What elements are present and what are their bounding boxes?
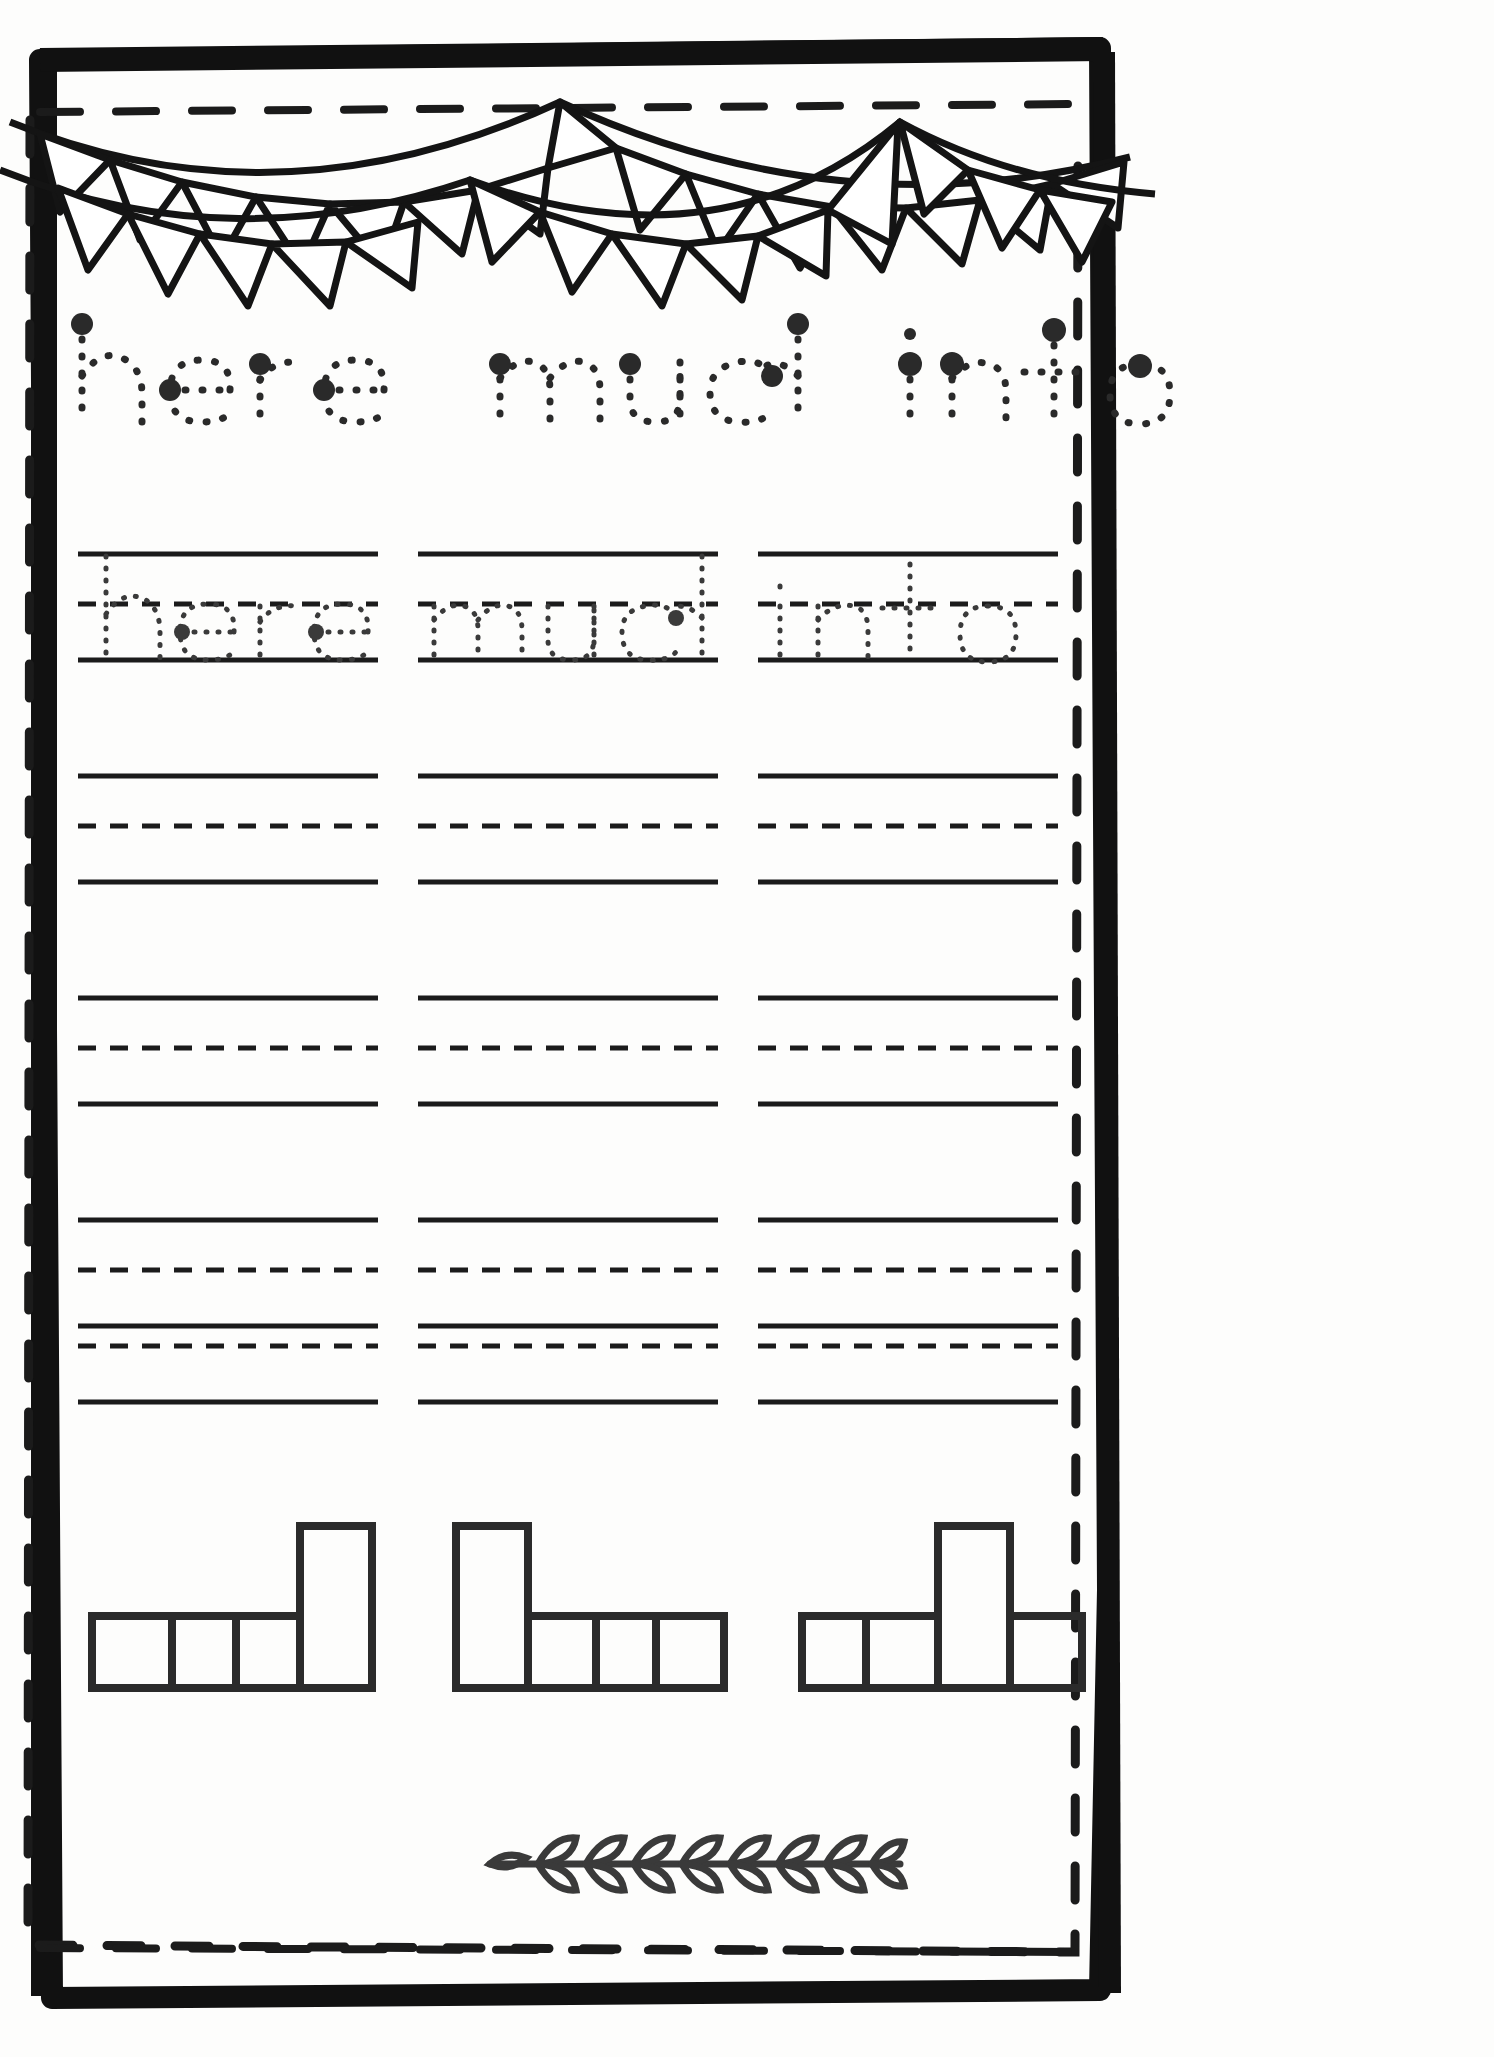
practice-row-3-col-2[interactable]: [418, 992, 718, 1112]
practice-row-1-col-2[interactable]: much: [418, 548, 718, 668]
practice-row-5-col-2[interactable]: [418, 1290, 718, 1410]
practice-row-1-col-3[interactable]: into: [758, 548, 1058, 668]
word-shape-much-boxes: [456, 1526, 724, 1688]
title-trace-row: here: [60, 318, 1420, 428]
leaf-vine-decoration: [480, 1818, 910, 1908]
title-word-much: much: [480, 318, 820, 428]
word-shape-group-here[interactable]: here: [88, 1520, 388, 1690]
worksheet-page: here: [0, 0, 1494, 2057]
bunting-banner: [0, 62, 1160, 282]
traced-word-here: [106, 556, 369, 660]
title-much-strokes: [500, 322, 798, 422]
practice-row-5-col-1[interactable]: [78, 1290, 378, 1410]
title-into-strokes: [910, 328, 1170, 424]
practice-row-2-col-1[interactable]: [78, 770, 378, 890]
traced-much-start-dots: [668, 610, 684, 626]
traced-word-much: [434, 556, 702, 660]
practice-row-3-col-3[interactable]: [758, 992, 1058, 1112]
word-shape-here-boxes: [92, 1526, 372, 1688]
title-word-into: into: [890, 318, 1190, 428]
word-shape-into-boxes: [802, 1526, 1082, 1688]
traced-word-into: [780, 564, 1016, 662]
word-shape-group-much[interactable]: much: [452, 1520, 752, 1690]
title-word-here: here: [60, 318, 400, 428]
practice-row-2-col-2[interactable]: [418, 770, 718, 890]
title-here-strokes: [82, 322, 386, 422]
practice-row-1-col-1[interactable]: here: [78, 548, 378, 668]
practice-row-5-col-3[interactable]: [758, 1290, 1058, 1410]
practice-row-2-col-3[interactable]: [758, 770, 1058, 890]
title-much-start-dots: [489, 313, 809, 387]
vine-leaves: [490, 1838, 904, 1890]
frame-top-bar: [40, 49, 1103, 60]
frame-inner-dashed-bottom: [40, 1948, 1072, 1952]
word-shape-group-into[interactable]: into: [798, 1520, 1098, 1690]
practice-row-3-col-1[interactable]: [78, 992, 378, 1112]
